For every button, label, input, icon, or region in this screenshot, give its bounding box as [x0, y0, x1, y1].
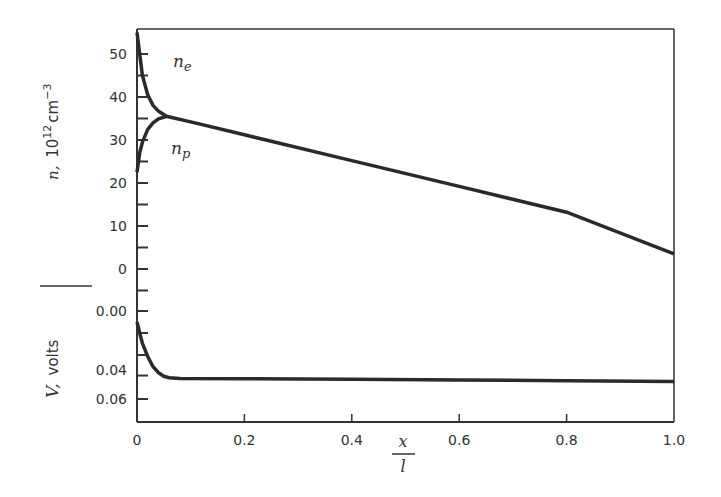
y-tick-label: 0.00 [96, 303, 127, 319]
x-axis-title: x l [392, 432, 415, 476]
x-tick-label: 0.2 [233, 432, 255, 448]
x-tick-label: 0.8 [555, 432, 577, 448]
x-tick-label: 0 [133, 432, 142, 448]
svg-text:x: x [398, 432, 407, 451]
bottom-y-axis-title: V, volts [42, 339, 62, 398]
top-y-axis-title: n, 1012cm−3 [41, 84, 62, 180]
y-tick-label: 0 [118, 261, 127, 277]
x-tick-label: 0.4 [341, 432, 363, 448]
plot-frame [137, 29, 674, 422]
y-tick-label: 30 [109, 132, 127, 148]
chart-svg: 01020304050 0.000.040.06 00.20.40.60.81.… [0, 0, 721, 497]
svg-text:l: l [400, 457, 405, 476]
x-ticks: 00.20.40.60.81.0 [133, 414, 686, 448]
bottom-y-ticks: 0.000.040.06 [96, 303, 148, 407]
x-tick-label: 0.6 [448, 432, 470, 448]
y-tick-label: 20 [109, 175, 127, 191]
y-tick-label: 40 [109, 89, 127, 105]
label-n-e: ne [173, 51, 192, 74]
y-tick-label: 0.06 [96, 391, 127, 407]
label-n-p: np [171, 138, 191, 161]
x-tick-label: 1.0 [663, 432, 685, 448]
series-n-e [137, 33, 674, 254]
y-tick-label: 0.04 [96, 362, 127, 378]
y-tick-label: 50 [109, 46, 127, 62]
top-y-ticks: 01020304050 [109, 46, 148, 291]
y-tick-label: 10 [109, 218, 127, 234]
series-v [137, 322, 674, 381]
series-n-p [137, 116, 167, 172]
